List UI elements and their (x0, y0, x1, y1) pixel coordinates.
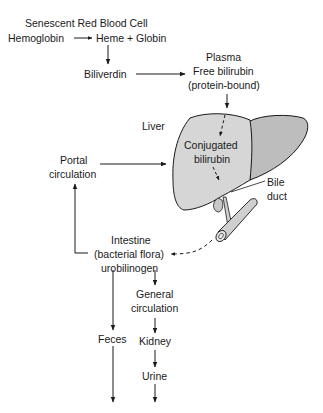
label-hemoglobin: Hemoglobin (8, 31, 64, 45)
liver-right-lobe (248, 115, 308, 180)
label-senescent-rbc: Senescent Red Blood Cell (25, 16, 148, 30)
label-protein-bound: (protein-bound) (188, 78, 260, 92)
label-biliverdin: Biliverdin (84, 67, 127, 81)
label-intestine: Intestine (111, 233, 151, 247)
label-portal: Portal (60, 153, 87, 167)
label-heme-globin: Heme + Globin (96, 31, 166, 45)
label-liver: Liver (142, 119, 165, 133)
label-conjugated: Conjugated (184, 138, 238, 152)
label-bile: Bile (267, 175, 285, 189)
label-general: General (136, 287, 173, 301)
label-kidney: Kidney (139, 334, 171, 348)
label-urine: Urine (142, 369, 167, 383)
bilirubin-metabolism-diagram: Senescent Red Blood Cell Hemoglobin Heme… (0, 0, 323, 413)
label-general-circulation: circulation (131, 301, 178, 315)
diagram-graphics (0, 0, 323, 413)
arrow-duct-to-intestine (171, 240, 212, 254)
label-feces: Feces (98, 332, 127, 346)
label-duct: duct (267, 189, 287, 203)
label-free-bilirubin: Free bilirubin (193, 64, 254, 78)
label-bilirubin-conjugated: bilirubin (194, 152, 230, 166)
label-urobilinogen: urobilinogen (101, 261, 158, 275)
arrow-intestine-to-portal (75, 184, 88, 253)
label-plasma: Plasma (206, 50, 241, 64)
label-bacterial-flora: (bacterial flora) (94, 247, 164, 261)
label-portal-circulation: circulation (49, 167, 96, 181)
